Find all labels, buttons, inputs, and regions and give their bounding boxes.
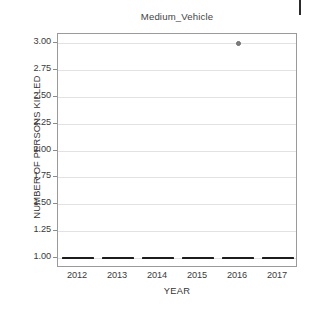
y-tick-label: 2.75 [11,63,51,73]
x-tick-label: 2015 [175,270,219,280]
gridline [58,43,296,44]
x-tick-label: 2013 [95,270,139,280]
y-tick-mark [53,42,57,43]
y-tick-mark [53,257,57,258]
gridline [58,231,296,232]
gridline [58,124,296,125]
y-tick-mark [53,203,57,204]
x-tick-label: 2014 [135,270,179,280]
y-tick-label: 1.25 [11,224,51,234]
median-bar [182,257,214,260]
median-bar [142,257,174,260]
x-tick-label: 2017 [255,270,299,280]
y-tick-label: 3.00 [11,36,51,46]
y-tick-label: 2.00 [11,144,51,154]
gridline [58,204,296,205]
median-bar [222,257,254,260]
y-tick-mark [53,176,57,177]
outlier-point [236,41,241,46]
y-tick-mark [53,123,57,124]
y-tick-label: 1.75 [11,170,51,180]
y-tick-mark [53,96,57,97]
y-tick-label: 1.50 [11,197,51,207]
gridline [58,97,296,98]
gridline [58,151,296,152]
chart-title: Medium_Vehicle [57,11,297,22]
x-tick-label: 2016 [215,270,259,280]
y-tick-mark [53,69,57,70]
median-bar [262,257,294,260]
plot-area [57,33,297,267]
x-axis-title: YEAR [57,286,297,296]
y-tick-mark [53,230,57,231]
y-tick-label: 2.25 [11,117,51,127]
chart-figure: Medium_Vehicle NUMBER OF PERSONS KILLED … [0,0,311,310]
x-tick-label: 2012 [55,270,99,280]
y-tick-mark [53,150,57,151]
y-tick-label: 2.50 [11,90,51,100]
y-tick-label: 1.00 [11,251,51,261]
page-edge-artifact [299,0,301,15]
median-bar [102,257,134,260]
gridline [58,177,296,178]
median-bar [62,257,94,260]
gridline [58,70,296,71]
